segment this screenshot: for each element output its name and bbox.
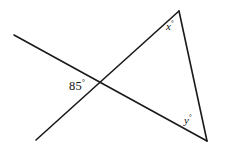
angle-label-x: x° xyxy=(166,20,174,32)
degree-symbol: ° xyxy=(189,113,192,120)
angle-label-85: 85° xyxy=(69,79,85,93)
geometry-figure: 85° x° y° xyxy=(0,0,230,153)
angle-label-y: y° xyxy=(184,114,192,126)
line-lower-left-to-apex xyxy=(36,11,179,140)
degree-symbol: ° xyxy=(82,78,85,87)
line-upper-left-to-bottom-right xyxy=(14,35,207,141)
geometry-canvas xyxy=(0,0,230,153)
degree-symbol: ° xyxy=(171,19,174,26)
